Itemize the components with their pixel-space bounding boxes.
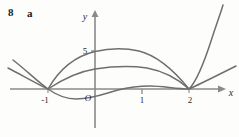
y-axis-arrowhead — [92, 10, 99, 17]
curve-cubic — [13, 5, 223, 99]
origin-label: O — [85, 93, 92, 103]
curve-tall-parabola — [48, 49, 189, 89]
x-axis-label: x — [228, 87, 234, 98]
curve-flat — [8, 66, 236, 89]
x-tick-label-2: 2 — [188, 95, 193, 105]
y-axis-label: y — [82, 11, 88, 22]
x-tick-label-minus1: -1 — [41, 95, 49, 105]
y-tick-label-5: 5 — [83, 46, 88, 56]
function-graph-figure: y x O 5 -1 1 2 — [0, 0, 239, 137]
x-tick-label-1: 1 — [140, 95, 145, 105]
x-axis-arrowhead — [218, 85, 226, 92]
